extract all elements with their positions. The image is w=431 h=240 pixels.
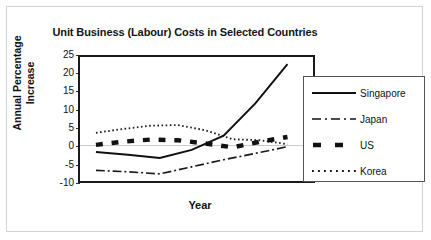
plot-canvas <box>80 57 313 181</box>
legend-item-singapore: Singapore <box>304 80 426 106</box>
solid-line-key <box>311 86 357 100</box>
dotted-line-key <box>311 164 357 178</box>
legend-item-japan: Japan <box>304 106 426 132</box>
legend-item-korea: Korea <box>304 158 426 184</box>
dash-dot-line-key <box>311 112 357 126</box>
plot-area <box>78 55 315 183</box>
legend-item-us: US <box>304 132 426 158</box>
legend-label-us: US <box>360 140 374 151</box>
chart-figure: Unit Business (Labour) Costs in Selected… <box>0 0 431 240</box>
chart-legend: Singapore Japan US K <box>303 76 425 182</box>
thick-dash-key <box>311 138 357 152</box>
legend-label-japan: Japan <box>360 114 387 125</box>
legend-label-korea: Korea <box>360 166 387 177</box>
legend-label-singapore: Singapore <box>360 88 406 99</box>
